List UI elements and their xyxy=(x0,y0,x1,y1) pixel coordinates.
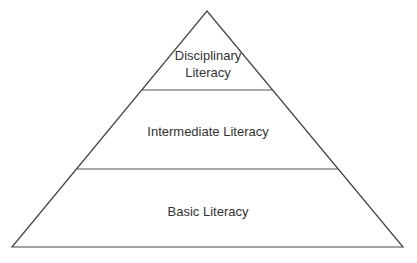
level-label-line1: Disciplinary xyxy=(175,47,241,64)
level-label-line2: Literacy xyxy=(175,64,241,81)
level-intermediate-literacy: Intermediate Literacy xyxy=(147,123,268,140)
level-disciplinary-literacy: Disciplinary Literacy xyxy=(175,47,241,81)
level-basic-literacy: Basic Literacy xyxy=(168,203,249,220)
